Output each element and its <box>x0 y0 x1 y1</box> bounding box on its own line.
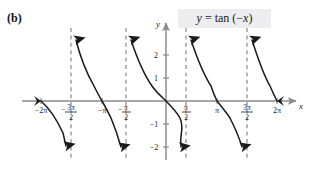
fraction-denominator: 2 <box>245 113 249 122</box>
y-tick-label-neg1: −1 <box>150 120 159 129</box>
fraction-sign: − <box>118 105 122 114</box>
y-axis-label: y <box>155 19 160 29</box>
x-tick-label-pi-over-2: π 2 <box>182 103 191 122</box>
x-tick-label-neg-pi-over-2: − π 2 <box>118 103 131 122</box>
equation-label-box: y = tan (−x) <box>178 9 271 28</box>
x-tick-label-pi: π <box>215 106 219 115</box>
fraction-numerator: π <box>184 103 188 112</box>
x-tick-label-neg-2pi: −2π <box>35 106 48 115</box>
x-tick-label-neg-3pi-over-2: − 3π 2 <box>61 103 77 122</box>
fraction-numerator: 3π <box>243 103 251 112</box>
fraction-sign: − <box>61 105 65 114</box>
y-tick-label-2: 2 <box>154 51 158 60</box>
tangent-branch-4 <box>191 40 242 147</box>
y-tick-label-neg2: −2 <box>150 143 159 152</box>
curve-group <box>41 40 277 147</box>
x-tick-label-3pi-over-2: 3π 2 <box>241 103 253 122</box>
x-tick-label-2pi: 2π <box>273 106 281 115</box>
fraction-denominator: 2 <box>124 113 128 122</box>
fraction-numerator: π <box>124 103 128 112</box>
equation-label-text: y = tan (−x) <box>197 11 253 26</box>
fraction-numerator: 3π <box>67 103 75 112</box>
fraction-denominator: 2 <box>184 113 188 122</box>
tangent-branch-2 <box>76 40 121 147</box>
y-tick-label-1: 1 <box>154 74 158 83</box>
figure-panel: (b) y = tan (−x) x <box>0 0 310 172</box>
x-axis-label: x <box>298 101 303 111</box>
panel-label: (b) <box>7 11 22 26</box>
tangent-branch-5 <box>252 40 277 101</box>
fraction-denominator: 2 <box>69 113 73 122</box>
